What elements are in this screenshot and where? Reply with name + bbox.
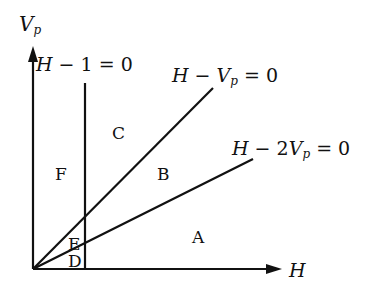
- h-axis-label: H: [289, 261, 306, 280]
- region-c: C: [112, 125, 125, 142]
- region-f: F: [55, 166, 67, 183]
- region-d: D: [68, 253, 82, 270]
- vp-axis-label: Vp: [19, 14, 41, 36]
- label-h-minus-vp: H − Vp = 0: [172, 66, 278, 87]
- diagram-canvas: Vp H H − 1 = 0 H − Vp = 0 H − 2Vp = 0 A …: [0, 0, 375, 295]
- region-e: E: [68, 236, 80, 253]
- label-h-minus-1: H − 1 = 0: [36, 55, 133, 74]
- h-axis-arrow-icon: [266, 264, 282, 274]
- region-b: B: [157, 166, 170, 183]
- region-a: A: [192, 229, 204, 246]
- label-h-minus-2vp: H − 2Vp = 0: [232, 139, 350, 160]
